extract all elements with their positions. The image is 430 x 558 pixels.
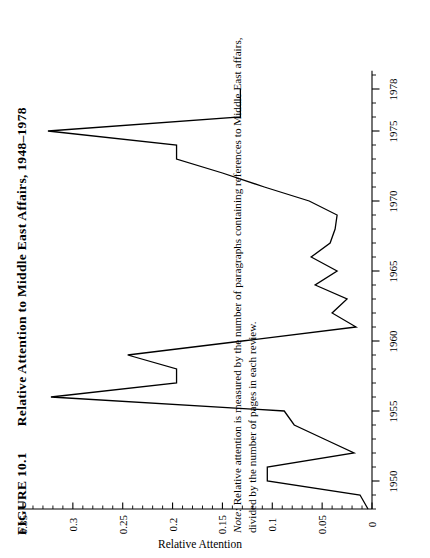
year-axis-tick-label: 1975	[387, 111, 400, 151]
year-axis-tick-label: 1970	[387, 181, 400, 221]
data-line	[48, 89, 368, 509]
value-axis-tick-label: 0.3	[66, 505, 79, 545]
line-chart-svg	[0, 0, 430, 558]
value-axis-tick-label: 0	[366, 505, 379, 545]
year-axis-tick-label: 1965	[387, 251, 400, 291]
value-axis-title: Relative Attention	[120, 538, 280, 553]
figure-page: FIGURE 10.1 Relative Attention to Middle…	[0, 0, 430, 558]
chart-series	[48, 89, 368, 509]
value-axis-tick-label: 0.35	[17, 505, 30, 545]
year-axis-tick-label: 1960	[387, 321, 400, 361]
year-axis-tick-label: 1950	[387, 461, 400, 501]
value-axis-tick-label: 0.05	[316, 505, 329, 545]
chart-plot-area: 00.050.10.150.20.250.30.35 1950195519601…	[0, 0, 430, 558]
year-axis-tick-label: 1955	[387, 391, 400, 431]
year-axis-tick-label: 1978	[387, 69, 400, 109]
